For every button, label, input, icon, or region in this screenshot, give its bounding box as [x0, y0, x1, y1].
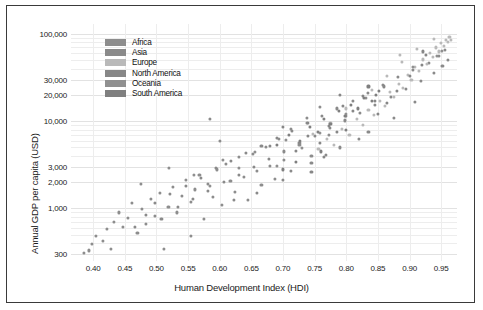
data-point [162, 248, 165, 251]
data-point [294, 149, 297, 152]
data-point [283, 150, 286, 153]
data-point [273, 177, 276, 180]
data-point [211, 196, 214, 199]
gridline-vertical [346, 24, 347, 261]
x-tick-label: 0.50 [149, 264, 164, 273]
gridline-horizontal [71, 243, 457, 244]
gridline-vertical [441, 24, 442, 261]
data-point [253, 151, 256, 154]
data-point [450, 39, 453, 42]
gridline-vertical [220, 24, 221, 261]
legend-swatch [105, 49, 126, 56]
data-point [310, 154, 313, 157]
chart-legend: AfricaAsiaEuropeNorth AmericaOceaniaSout… [105, 37, 201, 99]
data-point [207, 189, 210, 192]
data-point [393, 95, 396, 98]
data-point [222, 181, 225, 184]
data-point [425, 63, 428, 66]
data-point [400, 60, 403, 63]
data-point [218, 139, 221, 142]
x-tick-label: 0.65 [244, 264, 259, 273]
data-point [131, 202, 134, 205]
gridline-horizontal [71, 254, 457, 255]
data-point [305, 116, 308, 119]
legend-label: Asia [132, 48, 147, 57]
legend-swatch [105, 90, 126, 97]
y-axis-tick-labels: 3001,0002,0003,00010,00020,00030,000100,… [13, 24, 67, 261]
x-tick-label: 0.75 [307, 264, 322, 273]
legend-label: Oceania [132, 79, 161, 88]
legend-entry: North America [105, 68, 201, 78]
data-point [413, 101, 416, 104]
x-tick-label: 0.85 [371, 264, 386, 273]
gridline-horizontal [71, 208, 457, 209]
data-point [327, 133, 330, 136]
data-point [378, 100, 381, 103]
data-point [419, 79, 422, 82]
data-point [300, 147, 303, 150]
data-point [171, 186, 174, 189]
x-tick-label: 0.95 [434, 264, 449, 273]
data-point [388, 91, 391, 94]
data-point [428, 52, 431, 55]
data-point [168, 193, 171, 196]
data-point [374, 103, 377, 106]
y-tick-label: 300 [54, 250, 67, 259]
data-point [351, 110, 354, 113]
data-point [199, 176, 202, 179]
x-axis-title: Human Development Index (HDI) [7, 282, 476, 293]
data-point [446, 41, 449, 44]
data-point [359, 111, 362, 114]
gridline-vertical [93, 24, 94, 261]
data-point [399, 53, 402, 56]
data-point [255, 169, 258, 172]
legend-entry: South America [105, 89, 201, 99]
data-point [145, 223, 148, 226]
data-point [421, 64, 424, 67]
legend-label: Europe [132, 58, 157, 67]
y-tick-label: 100,000 [39, 29, 67, 38]
y-tick-label: 1,000 [48, 204, 67, 213]
gridline-horizontal [71, 167, 457, 168]
data-point [378, 90, 381, 93]
data-point [424, 53, 427, 56]
data-point [412, 68, 415, 71]
x-tick-label: 0.90 [402, 264, 417, 273]
data-point [417, 70, 420, 73]
gridline-horizontal [71, 141, 457, 142]
data-point [443, 48, 446, 51]
gridline-horizontal [71, 235, 457, 236]
data-point [192, 197, 195, 200]
gridline-horizontal [71, 212, 457, 213]
x-tick-label: 0.55 [181, 264, 196, 273]
data-point [245, 152, 248, 155]
data-point [184, 185, 187, 188]
data-point [160, 217, 163, 220]
data-point [416, 48, 419, 51]
data-point [294, 161, 297, 164]
data-point [431, 56, 434, 59]
x-tick-label: 0.45 [117, 264, 132, 273]
data-point [88, 249, 91, 252]
legend-entry: Africa [105, 37, 201, 47]
data-point [176, 211, 179, 214]
data-point [310, 171, 313, 174]
data-point [290, 129, 293, 132]
data-point [289, 169, 292, 172]
data-point [319, 150, 322, 153]
data-point [233, 190, 236, 193]
data-point [318, 141, 321, 144]
y-tick-label: 10,000 [44, 117, 67, 126]
data-point [94, 235, 97, 238]
data-point [202, 217, 205, 220]
legend-swatch [105, 80, 126, 87]
data-point [389, 95, 392, 98]
data-point [193, 174, 196, 177]
gridline-horizontal [71, 135, 457, 136]
data-point [308, 125, 311, 128]
y-tick-label: 2,000 [48, 178, 67, 187]
data-point [345, 128, 348, 131]
data-point [190, 235, 193, 238]
data-point [180, 194, 183, 197]
data-point [230, 159, 233, 162]
